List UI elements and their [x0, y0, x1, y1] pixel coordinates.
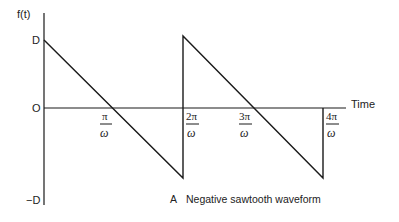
y-tick-bottom: −D [26, 194, 40, 206]
sawtooth-waveform [44, 36, 323, 178]
x-tick-numerator: π [102, 110, 108, 122]
x-tick-numerator: 2π [186, 110, 198, 122]
x-tick-numerator: 3π [239, 110, 251, 122]
x-tick-denominator: ω [100, 126, 108, 140]
y-tick-zero: O [32, 102, 41, 114]
x-tick-denominator: ω [240, 126, 248, 140]
x-tick-numerator: 4π [326, 110, 338, 122]
sawtooth-diagram: f(t) D O −D Time π ω 2π ω 3π ω 4π ω A Ne… [0, 0, 399, 222]
caption-text: Negative sawtooth waveform [186, 193, 321, 205]
x-tick-3pi-over-omega: 3π ω [239, 110, 252, 140]
caption-letter: A [170, 193, 177, 205]
x-axis-label: Time [351, 98, 375, 110]
y-tick-top: D [32, 34, 40, 46]
x-tick-denominator: ω [187, 126, 195, 140]
y-axis-label: f(t) [17, 8, 30, 20]
x-tick-pi-over-omega: π ω [100, 110, 112, 140]
x-tick-4pi-over-omega: 4π ω [326, 110, 339, 140]
x-tick-2pi-over-omega: 2π ω [186, 110, 199, 140]
x-tick-denominator: ω [327, 126, 335, 140]
